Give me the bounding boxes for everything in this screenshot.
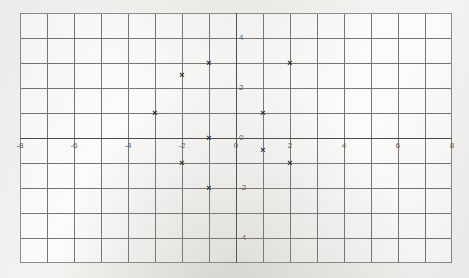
graph-paper-page: -8-6-4-202468 420-2-4 ×××××××××× xyxy=(0,0,469,278)
data-point-marker: × xyxy=(151,109,160,118)
x-tick-label-neg2: -2 xyxy=(178,142,185,150)
data-point-marker: × xyxy=(286,59,295,68)
y-tick-label-neg2: -2 xyxy=(239,184,246,192)
data-point-marker: × xyxy=(205,134,214,143)
data-point-marker: × xyxy=(259,146,268,155)
data-point-marker: × xyxy=(205,184,214,193)
x-tick-label-neg6: -6 xyxy=(70,142,77,150)
y-axis-line xyxy=(236,13,237,263)
y-tick-label-4: 4 xyxy=(239,34,243,42)
x-tick-label-neg8: -8 xyxy=(16,142,23,150)
x-tick-label-neg4: -4 xyxy=(124,142,131,150)
data-point-marker: × xyxy=(205,59,214,68)
plot-area: -8-6-4-202468 420-2-4 ×××××××××× xyxy=(20,13,452,263)
x-tick-label-8: 8 xyxy=(450,142,454,150)
data-point-marker: × xyxy=(178,71,187,80)
y-tick-label-neg4: -4 xyxy=(239,234,246,242)
x-tick-label-4: 4 xyxy=(342,142,346,150)
x-tick-label-6: 6 xyxy=(396,142,400,150)
data-point-marker: × xyxy=(259,109,268,118)
y-tick-label-2: 2 xyxy=(239,84,243,92)
x-tick-label-0: 0 xyxy=(234,142,238,150)
data-point-marker: × xyxy=(286,159,295,168)
x-tick-label-2: 2 xyxy=(288,142,292,150)
data-point-marker: × xyxy=(178,159,187,168)
y-tick-label-0: 0 xyxy=(239,134,243,142)
